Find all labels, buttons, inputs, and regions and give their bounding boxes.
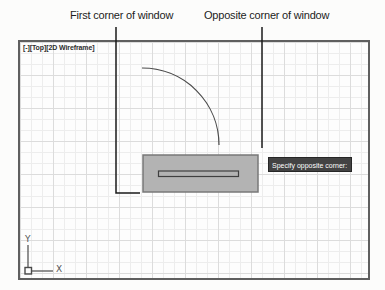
dynamic-input-tooltip: Specify opposite corner: <box>268 157 352 172</box>
opposite-corner-callout-label: Opposite corner of window <box>204 9 329 21</box>
figure: First corner of window Opposite corner o… <box>0 0 385 290</box>
viewport-controls-label[interactable]: [-][Top][2D Wireframe] <box>23 44 95 51</box>
first-corner-callout-label: First corner of window <box>70 9 173 21</box>
